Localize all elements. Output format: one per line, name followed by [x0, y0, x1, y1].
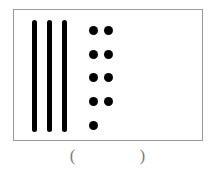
ones-dot: [104, 26, 113, 35]
ones-dot: [89, 73, 98, 82]
ones-dot: [89, 97, 98, 106]
ones-dot: [89, 26, 98, 35]
ones-dot: [104, 73, 113, 82]
dot-row: [89, 73, 117, 83]
dot-row: [89, 97, 117, 107]
tens-rods-group: [32, 20, 84, 132]
ones-dot: [89, 121, 98, 130]
ones-dot: [104, 50, 113, 59]
figure-frame: [13, 9, 203, 141]
tens-rod: [62, 20, 67, 132]
ones-dot: [104, 97, 113, 106]
ones-dot: [89, 50, 98, 59]
dot-row: [89, 50, 117, 60]
worksheet-figure: ( ): [0, 0, 216, 170]
dot-row: [89, 26, 117, 36]
tens-rod: [47, 20, 52, 132]
answer-blank[interactable]: ( ): [62, 142, 154, 168]
ones-dots-group: [89, 26, 117, 132]
dot-row: [89, 121, 117, 131]
tens-rod: [32, 20, 37, 132]
